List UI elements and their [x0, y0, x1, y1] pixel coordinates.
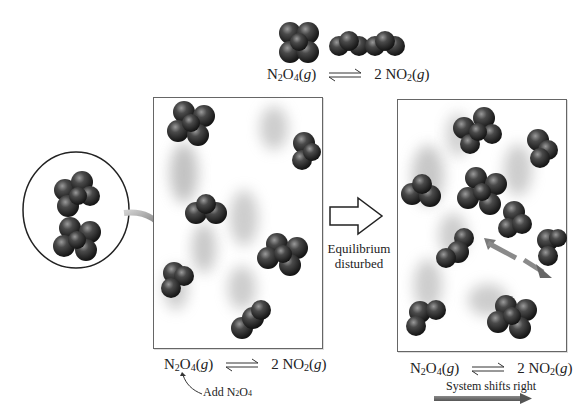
equilibrium-disturbed-label: Equilibrium disturbed	[322, 241, 396, 271]
equilibrium-arrows-icon	[471, 363, 505, 375]
right-equation: N2O4(g) 2 NO2(g)	[410, 360, 573, 377]
n2o4-molecule	[257, 233, 308, 276]
no2-molecule	[292, 132, 321, 170]
inset-n2o4-molecule-2	[53, 217, 101, 261]
label-line-2: disturbed	[322, 256, 396, 271]
hollow-right-arrow-icon	[328, 196, 384, 236]
equilibrium-arrows-icon	[225, 359, 259, 371]
dissociation-arrow-down-right	[536, 264, 552, 278]
n2o4-molecule	[457, 167, 507, 215]
product-formula: 2 NO2(g)	[374, 66, 429, 83]
reactant-formula: N2O4(g)	[267, 66, 316, 83]
reactant-formula: N2O4(g)	[164, 356, 213, 373]
no2-molecule	[406, 300, 446, 336]
product-formula: 2 NO2(g)	[517, 360, 572, 377]
inset-circle	[20, 150, 132, 270]
add-n2o4-label: Add N2O4	[203, 385, 252, 400]
no2-molecule	[527, 129, 558, 168]
top-n2o4-molecule	[276, 20, 324, 68]
n2o4-molecule	[167, 101, 215, 146]
shift-right-arrow-icon	[434, 393, 534, 405]
right-molecules	[398, 100, 566, 351]
no2-molecule	[161, 262, 194, 298]
right-container	[397, 99, 567, 352]
label-line-1: Equilibrium	[322, 241, 396, 256]
left-container	[153, 97, 323, 349]
reactant-formula: N2O4(g)	[410, 360, 459, 377]
left-equation: N2O4(g) 2 NO2(g)	[164, 356, 327, 373]
no2-molecule	[498, 201, 532, 238]
system-shifts-right-label: System shifts right	[436, 379, 546, 394]
equilibrium-arrows-icon	[328, 69, 362, 81]
left-molecules	[154, 98, 322, 348]
top-no2-molecule-2	[364, 28, 406, 62]
top-equation: N2O4(g) 2 NO2(g)	[267, 66, 430, 83]
no2-molecule	[537, 229, 567, 266]
product-formula: 2 NO2(g)	[271, 356, 326, 373]
